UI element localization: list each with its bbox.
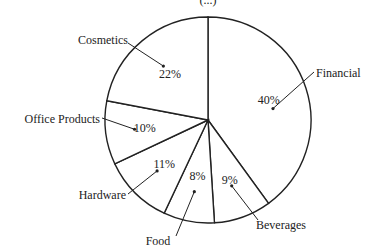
chart-subtitle: (...) — [200, 0, 217, 7]
slice-value-label: 9% — [222, 173, 238, 187]
category-label: Financial — [316, 66, 361, 80]
slice-value-label: 10% — [134, 121, 156, 135]
category-label: Food — [146, 234, 171, 248]
category-label: Cosmetics — [78, 33, 128, 47]
category-label: Hardware — [79, 188, 126, 202]
slice-value-label: 8% — [189, 169, 205, 183]
slice-value-label: 11% — [154, 157, 176, 171]
pie-chart: (...) 40%Financial9%Beverages8%Food11%Ha… — [0, 0, 379, 250]
category-label: Office Products — [25, 112, 101, 126]
slice-value-label: 22% — [159, 67, 181, 81]
category-label: Beverages — [256, 218, 306, 232]
